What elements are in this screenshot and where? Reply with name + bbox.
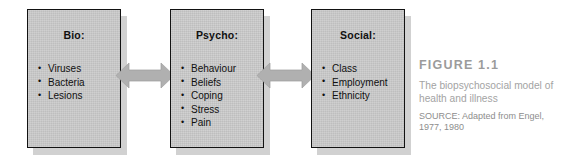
box-list-bio: Viruses Bacteria Lesions	[38, 62, 116, 103]
figure-caption: FIGURE 1.1 The biopsychosocial model of …	[419, 58, 559, 134]
box-body: Bio: Viruses Bacteria Lesions	[27, 9, 121, 148]
figure-biopsychosocial-model: Bio: Viruses Bacteria Lesions Psycho: Be…	[0, 0, 562, 168]
figure-description: The biopsychosocial model of health and …	[419, 79, 559, 106]
box-list-social: Class Employment Ethnicity	[322, 62, 400, 103]
figure-number-label: FIGURE 1.1	[419, 58, 559, 73]
list-item: Beliefs	[181, 76, 259, 90]
list-item: Class	[322, 62, 400, 76]
box-body: Social: Class Employment Ethnicity	[311, 9, 405, 148]
figure-source-note: SOURCE: Adapted from Engel, 1977, 1980	[419, 111, 559, 134]
list-item: Employment	[322, 76, 400, 90]
list-item: Coping	[181, 89, 259, 103]
double-headed-arrow-icon-psycho-social	[257, 62, 315, 89]
list-item: Lesions	[38, 89, 116, 103]
box-title-social: Social:	[312, 29, 404, 41]
list-item: Behaviour	[181, 62, 259, 76]
box-list-psycho: Behaviour Beliefs Coping Stress Pain	[181, 62, 259, 130]
list-item: Viruses	[38, 62, 116, 76]
box-body: Psycho: Behaviour Beliefs Coping Stress …	[170, 9, 264, 148]
box-title-psycho: Psycho:	[171, 29, 263, 41]
list-item: Stress	[181, 103, 259, 117]
double-headed-arrow-icon-bio-psycho	[116, 62, 174, 89]
box-title-bio: Bio:	[28, 29, 120, 41]
list-item: Bacteria	[38, 76, 116, 90]
list-item: Ethnicity	[322, 89, 400, 103]
list-item: Pain	[181, 116, 259, 130]
